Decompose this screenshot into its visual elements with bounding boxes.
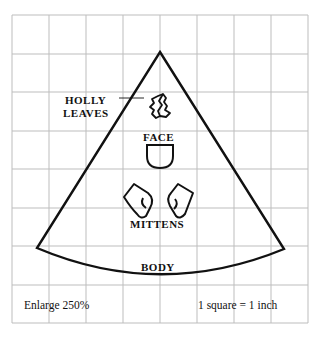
holly-label-line2: LEAVES	[63, 107, 109, 119]
scale-note: 1 square = 1 inch	[198, 299, 278, 312]
pattern-diagram: HOLLY LEAVES FACE MITTENS BODY Enlarge 2…	[0, 0, 316, 338]
holly-label-line1: HOLLY	[65, 94, 106, 106]
face-label: FACE	[143, 131, 174, 143]
enlarge-note: Enlarge 250%	[24, 299, 90, 312]
body-label: BODY	[141, 261, 175, 273]
mittens-icon	[124, 184, 193, 218]
mittens-label: MITTENS	[130, 218, 184, 230]
